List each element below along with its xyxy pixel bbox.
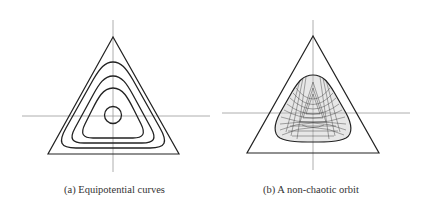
orbit-boundary: [275, 75, 351, 142]
figure-a-equipotential: [22, 20, 210, 172]
figure-b-orbit: [222, 20, 410, 170]
caption-b: (b) A non-chaotic orbit: [263, 184, 359, 195]
figure-canvas: [0, 0, 427, 214]
caption-a: (a) Equipotential curves: [64, 184, 165, 195]
outer-triangle: [48, 37, 179, 154]
